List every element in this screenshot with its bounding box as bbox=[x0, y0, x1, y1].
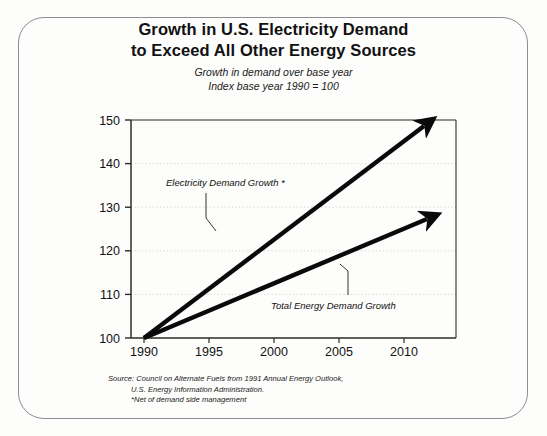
source-note-line-1: Source: Council on Alternate Fuels from … bbox=[108, 374, 468, 385]
y-tick-label: 100 bbox=[99, 332, 120, 346]
x-axis-labels: 1990 1995 2000 2005 2010 bbox=[130, 345, 418, 359]
series-label-electricity: Electricity Demand Growth * bbox=[166, 177, 285, 188]
y-tick-label: 130 bbox=[99, 201, 120, 215]
series-line-total-energy bbox=[144, 219, 427, 338]
y-axis-ticks bbox=[125, 120, 131, 338]
leader-line-electricity bbox=[206, 193, 216, 231]
leader-line-total-energy bbox=[340, 264, 348, 295]
y-tick-label: 120 bbox=[99, 244, 120, 258]
series-label-total-energy: Total Energy Demand Growth bbox=[271, 300, 396, 311]
y-tick-label: 150 bbox=[99, 114, 120, 128]
y-tick-label: 140 bbox=[99, 157, 120, 171]
x-tick-label: 1990 bbox=[130, 345, 158, 359]
x-tick-label: 2005 bbox=[325, 345, 353, 359]
source-note: Source: Council on Alternate Fuels from … bbox=[108, 374, 468, 406]
source-note-line-2: U.S. Energy Information Administration. bbox=[108, 385, 468, 396]
source-note-line-3: *Net of demand side management bbox=[108, 395, 468, 406]
y-axis-labels: 100 110 120 130 140 150 bbox=[99, 114, 120, 346]
chart-page: Growth in U.S. Electricity Demand to Exc… bbox=[0, 0, 547, 436]
x-axis-ticks bbox=[144, 338, 404, 343]
x-tick-label: 1995 bbox=[195, 345, 223, 359]
x-tick-label: 2010 bbox=[390, 345, 418, 359]
y-tick-label: 110 bbox=[100, 288, 120, 302]
x-tick-label: 2000 bbox=[260, 345, 288, 359]
plot-area: 100 110 120 130 140 150 1990 1995 2000 2… bbox=[0, 0, 547, 436]
